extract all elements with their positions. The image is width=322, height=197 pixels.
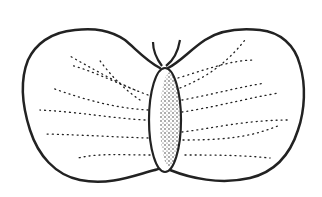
antenna-left <box>153 42 162 66</box>
right-wing <box>168 29 304 181</box>
right-wing-veins <box>178 40 290 158</box>
butterfly-illustration: butterfly line drawing <box>0 0 322 197</box>
butterfly-drawing <box>0 0 322 197</box>
left-wing <box>23 29 160 181</box>
left-wing-veins <box>40 55 150 158</box>
